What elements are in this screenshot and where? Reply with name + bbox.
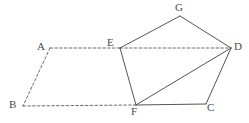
edge-G-D xyxy=(180,16,231,48)
vertex-label-f: F xyxy=(131,106,137,117)
vertex-label-b: B xyxy=(9,99,16,110)
edge-A-B xyxy=(23,48,50,106)
edge-E-G xyxy=(120,16,180,48)
edge-E-F xyxy=(120,48,136,105)
edge-B-F xyxy=(23,105,136,106)
vertex-label-d: D xyxy=(234,41,242,52)
vertex-label-e: E xyxy=(107,37,114,48)
edges-group xyxy=(23,16,231,106)
edge-F-C xyxy=(136,104,206,105)
vertex-label-g: G xyxy=(175,2,183,13)
vertex-label-a: A xyxy=(37,41,45,52)
vertex-label-c: C xyxy=(207,102,214,113)
geometry-figure: ABCDEFG xyxy=(0,0,249,123)
edge-C-D xyxy=(206,48,231,104)
edge-F-D xyxy=(136,48,231,105)
